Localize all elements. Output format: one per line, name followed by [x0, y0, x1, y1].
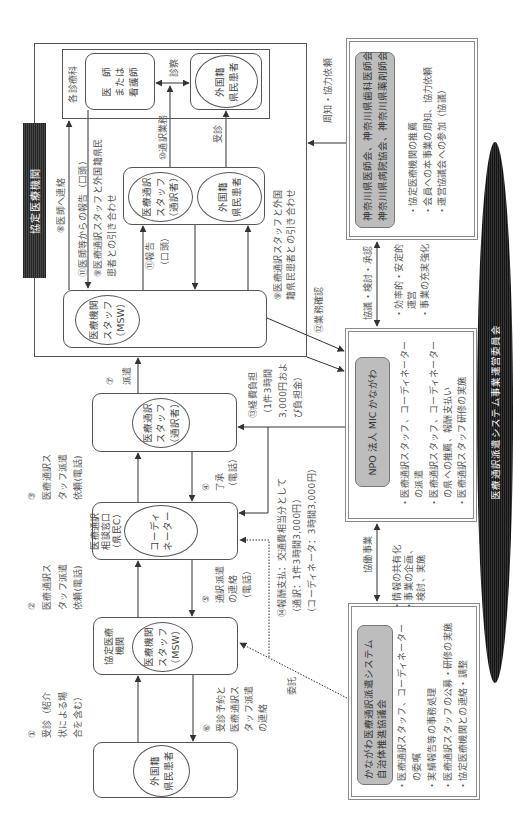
entrust-label: 委託 [285, 676, 298, 695]
msw-line: スタッフ [156, 627, 170, 667]
bullet-line: ・情報の共有化 [391, 545, 403, 610]
role-line: ・医療通訳スタッフ、コーディネーター [427, 341, 441, 507]
label-line: ⑬経費負担 [246, 363, 261, 418]
pair-patient-ellipse: 外国籍 県民患者 [197, 172, 262, 222]
foreign-patient-ellipse: 外国籍 県民患者 [133, 745, 190, 797]
step9-label-pair: ⑨医療通訳スタッフと外国 籍県民患者との引き合わせ [272, 188, 298, 300]
step13-label: ⑬経費負担 （1件3時間 3,000円およ び負担金） [246, 363, 306, 418]
bullet-line: ・事業の企画、 [403, 545, 415, 610]
label-line: 患者との引き合わせ [105, 138, 119, 277]
label-line: ⑥ [200, 686, 214, 733]
step8-label: ⑧医師へ連絡 [54, 178, 67, 233]
label-line: ⑤ [200, 566, 214, 603]
collaboration-link-bullets: ・情報の共有化 ・事業の企画、 検討、実施 [391, 545, 427, 610]
consult-desk-label: 医療通訳 相談窓口 （県民C） [90, 502, 123, 560]
label-line: 医療通訳ス [40, 454, 55, 501]
role-line: ・実績報告等の事務処理 [425, 623, 440, 790]
role-line: ・医療通訳スタッフ、コーディネーター [398, 341, 412, 507]
interpreter-line: （通訳者） [167, 172, 181, 222]
bullet-line: 運営 [406, 244, 419, 318]
coordinator-line: コーディ [148, 512, 162, 551]
label-line: 合を含む） [71, 692, 86, 739]
role-line: の委嘱 [410, 623, 425, 790]
role-line: の県への推薦、報酬支払い [441, 341, 455, 507]
step3-label: ③ 医療通訳ス タッフ派遣 依頼(電話) [25, 454, 86, 501]
step5-label: ⑤ 通訳派遣 の連絡 （電話） [200, 566, 254, 603]
label-line: の連絡 [256, 686, 270, 733]
patient-line: 外国籍 [216, 182, 230, 212]
bullet-line: 検討、実施 [415, 545, 427, 610]
collaboration-link-label: 協働事業 [361, 536, 374, 573]
label-line: び負担金） [291, 363, 306, 418]
label-line: 了承 [214, 454, 228, 491]
label-line: 医療通訳ス [40, 564, 55, 611]
msw-line: 医療機関 [87, 300, 101, 340]
patient-line: 県民患者 [162, 751, 176, 791]
org-name-line: 自治体推進協議会 [375, 626, 388, 779]
org-name-line: NPO 法人 MIC かながわ [365, 369, 380, 476]
org-name-line: 神奈川県医師会、神奈川県歯科医師会 [360, 53, 375, 221]
coordinator-line: ネーター [161, 511, 175, 551]
label-line: （電話） [241, 566, 255, 603]
interpreter-line: 医療通訳 [140, 177, 154, 217]
label-line: ⑭報酬支払：交通費相当分として [275, 464, 290, 617]
msw-line: （MSW） [169, 625, 183, 669]
label-line: 協定医療 [104, 627, 115, 664]
step10-label: ⑩通訳業務 [156, 114, 169, 160]
label-line: （通訳：1件3時間3,000円） [290, 464, 305, 617]
label-line: ④ [200, 454, 214, 491]
label-line: ② [25, 564, 40, 611]
step11-report-label: ⑪報告 （口頭） [143, 233, 173, 270]
label-line: 依頼(電話) [71, 454, 86, 501]
patient-line: 県民患者 [227, 62, 241, 102]
council-link-bullets: ・効率的・安定的 運営 ・事業の充実強化 [393, 244, 432, 318]
npo-roles: ・医療通訳スタッフ、コーディネーター の派遣 ・医療通訳スタッフ、コーディネータ… [398, 341, 469, 507]
interpreter-line: スタッフ [154, 177, 168, 217]
patient-line: 外国籍 [148, 756, 162, 786]
step6-label: ⑥ 受診予約と 医療通訳ス タッフ派遣 の連絡 [200, 686, 270, 733]
exam-label: 診察 [167, 58, 180, 77]
doctor-line: 看護師 [127, 67, 141, 97]
npo-name-badge: NPO 法人 MIC かながわ [355, 357, 390, 487]
label-line: 受診予約と [214, 686, 228, 733]
label-line: ⑨医療通訳スタッフと外国籍県民 [91, 138, 105, 277]
steering-committee-oval: 医療通訳派遣システム事業運営委員会 [477, 142, 513, 683]
label-line: （口頭） [158, 233, 173, 270]
department-patient-ellipse: 外国籍 県民患者 [195, 55, 258, 108]
council-link-label: 協議・検討・承認 [361, 246, 374, 320]
department-label: 各診療科 [66, 49, 79, 119]
label-line: （1件3時間 [261, 363, 276, 418]
org-name-line: 神奈川県病院協会、神奈川県薬剤師会 [375, 53, 390, 221]
label-line: 派遣 [119, 366, 136, 385]
consultation-label: 受診 [211, 124, 224, 143]
role-line: ・会員への本事業の周知、協力依頼 [421, 66, 436, 215]
role-line: ・協定医療機関との連絡・調整 [456, 623, 471, 790]
arrow-step13-expense [307, 357, 344, 371]
promotion-council-roles: ・医療通訳スタッフ、コーディネーター の委嘱 ・実績報告等の事務処理 ・医療通訳… [395, 623, 471, 790]
role-line: ・医療通訳スタッフの公募・研修の実施 [441, 623, 456, 790]
label-line: の連絡 [227, 566, 241, 603]
step2-label: ② 医療通訳ス タッフ派遣 依頼(電話) [25, 564, 86, 611]
role-line: ・医療通訳スタッフ研修の実施 [455, 341, 469, 507]
msw-lower-ellipse: 医療機関 スタッフ （MSW） [132, 622, 193, 672]
doctor-line: または [113, 67, 127, 97]
medical-associations-names: 神奈川県医師会、神奈川県歯科医師会 神奈川県病院協会、神奈川県薬剤師会 [355, 52, 395, 228]
step7-label: ⑦ 派遣 [102, 366, 136, 385]
msw-upper-ellipse: 医療機関 スタッフ （MSW） [75, 295, 140, 345]
interpreter-line: （通訳者） [168, 398, 182, 448]
msw-line: 医療機関 [142, 627, 156, 667]
patient-line: 外国籍 [213, 67, 227, 97]
doctor-node: 医 師 または 看護師 [85, 53, 155, 110]
step1-label: ① 受診（紹介 状による場 合を含む） [25, 692, 86, 739]
label-line: 状による場 [56, 692, 71, 739]
msw-line: （MSW） [114, 298, 128, 342]
label-line: 医療通訳 [90, 512, 101, 549]
partner-hospital-node-label: 協定医療 機関 [104, 617, 126, 675]
partner-hospital-label: 協定医療機関 [23, 123, 46, 278]
label-line: 通訳派遣 [214, 566, 228, 603]
coordinator-ellipse: コーディ ネーター [124, 505, 198, 557]
interpreter-line: スタッフ [154, 403, 168, 443]
step12-label: ⑫業務確認 [312, 287, 325, 334]
label-line: 3,000円およ [276, 363, 291, 418]
